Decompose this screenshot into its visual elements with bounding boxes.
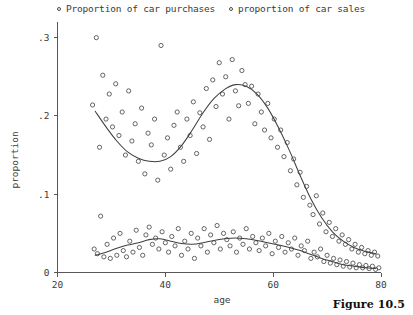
data-point <box>156 178 160 182</box>
data-point <box>312 250 316 254</box>
data-point <box>308 203 312 207</box>
data-point <box>186 247 190 251</box>
data-point <box>293 236 297 240</box>
data-point <box>211 78 215 82</box>
data-point <box>201 125 205 129</box>
data-point <box>327 220 331 224</box>
data-point <box>191 100 195 104</box>
data-point <box>246 101 250 105</box>
data-point <box>102 255 106 259</box>
data-point <box>207 137 211 141</box>
data-point <box>353 242 357 246</box>
data-point <box>224 75 228 79</box>
data-point <box>141 253 145 257</box>
data-point <box>157 247 161 251</box>
data-point <box>162 153 166 157</box>
data-point <box>110 125 114 129</box>
data-point <box>334 227 338 231</box>
data-point <box>286 241 290 245</box>
axes-group <box>58 22 382 273</box>
data-point <box>107 92 111 96</box>
data-point <box>217 61 221 65</box>
data-point <box>173 244 177 248</box>
data-point <box>101 73 105 77</box>
data-point <box>299 244 303 248</box>
data-point <box>282 155 286 159</box>
data-point <box>215 223 219 227</box>
data-point <box>227 117 231 121</box>
data-point <box>233 89 237 93</box>
data-point <box>273 239 277 243</box>
data-point <box>218 247 222 251</box>
data-point <box>111 236 115 240</box>
data-point <box>118 231 122 235</box>
data-point <box>306 239 310 243</box>
data-point <box>241 242 245 246</box>
data-point <box>195 151 199 155</box>
data-point <box>128 239 132 243</box>
data-point <box>105 242 109 246</box>
data-point <box>212 241 216 245</box>
data-point <box>253 122 257 126</box>
data-point <box>301 195 305 199</box>
data-point <box>134 228 138 232</box>
data-point <box>123 153 127 157</box>
x-axis-title: age <box>213 294 230 305</box>
data-point <box>202 227 206 231</box>
x-axis-tick-label: 20 <box>52 279 64 290</box>
figure-container: Proportion of car purchases proportion o… <box>0 0 413 315</box>
data-point <box>192 256 196 260</box>
data-point <box>199 244 203 248</box>
data-point <box>288 169 292 173</box>
data-point <box>124 255 128 259</box>
data-point <box>170 234 174 238</box>
data-point <box>359 245 363 249</box>
data-point <box>159 43 163 47</box>
data-point <box>337 239 341 243</box>
data-point <box>321 211 325 215</box>
data-point <box>270 252 274 256</box>
y-axis-title: proportion <box>9 131 20 188</box>
lowess-curve-sales <box>95 238 375 269</box>
data-point <box>347 238 351 242</box>
data-point <box>351 261 355 265</box>
data-point <box>267 231 271 235</box>
data-point <box>182 159 186 163</box>
x-axis-ticks: 20406080 <box>52 273 387 290</box>
data-point <box>264 244 268 248</box>
data-point <box>266 101 270 105</box>
data-point <box>169 167 173 171</box>
data-point <box>150 242 154 246</box>
data-point <box>260 236 264 240</box>
data-point <box>324 230 328 234</box>
data-point <box>330 234 334 238</box>
data-point <box>166 250 170 254</box>
data-point <box>160 230 164 234</box>
data-point <box>140 106 144 110</box>
data-point <box>240 68 244 72</box>
data-point <box>275 145 279 149</box>
data-point <box>143 172 147 176</box>
data-point <box>90 103 94 107</box>
data-point <box>163 241 167 245</box>
data-point <box>146 131 150 135</box>
data-point <box>319 247 323 251</box>
data-point <box>97 145 101 149</box>
data-point <box>311 212 315 216</box>
data-point <box>154 236 158 240</box>
y-axis-tick-label: 0 <box>44 267 50 278</box>
series-purchases-points <box>90 36 379 259</box>
data-point <box>231 230 235 234</box>
data-point <box>234 250 238 254</box>
data-point <box>136 159 140 163</box>
data-point <box>179 253 183 257</box>
data-point <box>325 253 329 257</box>
data-point <box>165 136 169 140</box>
data-point <box>331 256 335 260</box>
data-point <box>198 111 202 115</box>
data-point <box>283 250 287 254</box>
data-point <box>228 244 232 248</box>
data-point <box>309 256 313 260</box>
data-point <box>172 123 176 127</box>
data-point <box>209 233 213 237</box>
